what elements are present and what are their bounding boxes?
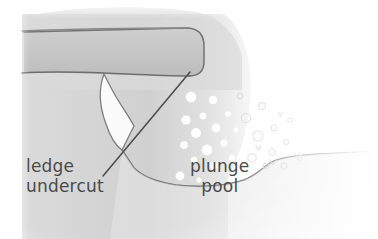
label-plunge-pool-line2: pool — [190, 176, 250, 196]
figure-canvas: ledge undercut plunge pool — [0, 0, 378, 239]
waterfall-cross-section-illustration — [0, 0, 378, 239]
label-plunge-pool: plunge pool — [190, 156, 250, 196]
label-ledge-undercut-line1: ledge — [26, 156, 104, 176]
label-ledge-undercut: ledge undercut — [26, 156, 104, 196]
vignette-fade — [0, 0, 378, 239]
label-plunge-pool-line1: plunge — [190, 156, 250, 176]
label-ledge-undercut-line2: undercut — [26, 176, 104, 196]
